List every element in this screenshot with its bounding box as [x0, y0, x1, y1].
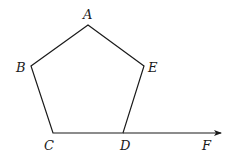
label-f: F — [201, 138, 212, 153]
pentagon-abcde — [31, 25, 144, 133]
label-b: B — [15, 60, 26, 75]
label-d: D — [119, 138, 131, 153]
label-a: A — [82, 7, 92, 22]
label-c: C — [44, 138, 54, 153]
pentagon-diagram: A B E C D F — [0, 0, 230, 165]
label-e: E — [147, 60, 158, 75]
